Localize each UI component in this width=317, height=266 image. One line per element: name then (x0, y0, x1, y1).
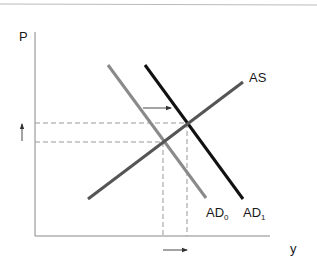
ad0-label-sub: 0 (224, 213, 228, 222)
ad0-label: AD0 (206, 206, 229, 222)
ad1-label-sub: 1 (261, 213, 265, 222)
ad0-label-main: AD (206, 205, 224, 220)
p-axis-label: P (19, 30, 28, 43)
as-label: AS (249, 71, 266, 84)
y-axis-label: y (290, 242, 297, 255)
as-curve (88, 82, 243, 199)
top-rule (0, 4, 317, 5)
ad1-curve (145, 65, 243, 199)
ad1-label: AD1 (243, 206, 266, 222)
ad-as-diagram (0, 0, 317, 266)
ad0-curve (108, 65, 206, 198)
ad1-label-main: AD (243, 205, 261, 220)
